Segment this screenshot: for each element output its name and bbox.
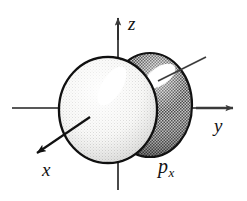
orbital-figure: z y x px	[0, 0, 247, 201]
orbital-label: px	[158, 156, 174, 179]
orbital-diagram-canvas	[0, 0, 247, 201]
x-axis-label: x	[42, 160, 50, 179]
orbital-label-symbol: p	[158, 155, 168, 177]
orbital-label-subscript: x	[169, 165, 175, 180]
front-lobe-shade	[60, 58, 156, 162]
y-axis-label: y	[214, 116, 222, 135]
z-axis-label: z	[128, 14, 135, 33]
front-lobe	[59, 57, 157, 163]
